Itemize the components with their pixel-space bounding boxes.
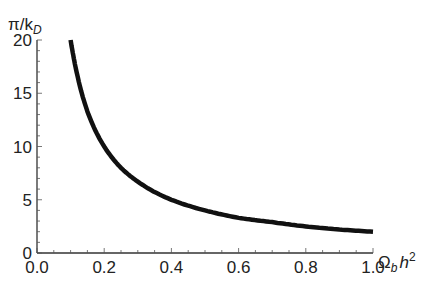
axes xyxy=(37,40,373,253)
y-tick-label: 15 xyxy=(13,84,32,103)
x-tick-label: 0.6 xyxy=(227,258,251,277)
x-axis-label: Ωbh2 xyxy=(378,250,416,275)
y-axis-label: π/kD xyxy=(8,15,42,37)
x-tick-label: 0.4 xyxy=(160,258,184,277)
x-tick-label: 0.2 xyxy=(92,258,116,277)
tick-labels: 051015200.00.20.40.60.81.0 xyxy=(13,31,385,277)
y-tick-label: 10 xyxy=(13,138,32,157)
chart-canvas: 051015200.00.20.40.60.81.0 π/kD Ωbh2 xyxy=(0,0,428,290)
x-tick-label: 0.0 xyxy=(25,258,49,277)
data-curve xyxy=(71,40,373,232)
ticks xyxy=(37,40,373,253)
x-tick-label: 0.8 xyxy=(294,258,318,277)
y-tick-label: 5 xyxy=(23,191,32,210)
